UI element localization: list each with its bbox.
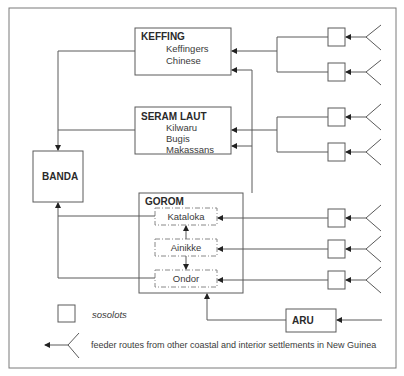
keffing-box: KEFFING Keffingers Chinese xyxy=(135,28,231,75)
feeder-legend-icon xyxy=(68,333,79,358)
keffing-item-1: Keffingers xyxy=(166,43,209,54)
seram-laut-item-3: Makassans xyxy=(166,144,214,155)
seram-laut-item-1: Kilwaru xyxy=(166,122,197,133)
legend-sosolots: sosolots xyxy=(92,309,127,320)
feeder-route-icon xyxy=(366,104,381,130)
ainikke-label: Ainikke xyxy=(171,242,202,253)
keffing-title: KEFFING xyxy=(141,31,185,42)
gorom-title: GOROM xyxy=(145,196,184,207)
seram-feeders xyxy=(232,104,381,165)
gorom-feeders xyxy=(218,205,381,293)
ondor-label: Ondor xyxy=(173,273,199,284)
banda-box: BANDA xyxy=(33,151,83,202)
keffing-item-2: Chinese xyxy=(166,55,201,66)
sosolot-box xyxy=(328,240,345,258)
sosolot-box xyxy=(328,28,345,46)
feeder-route-icon xyxy=(366,267,381,293)
sosolot-legend-icon xyxy=(58,305,75,322)
feeder-route-icon xyxy=(366,60,381,85)
trade-network-diagram: KEFFING Keffingers Chinese SERAM LAUT Ki… xyxy=(0,0,404,376)
seram-laut-item-2: Bugis xyxy=(166,133,190,144)
sosolot-box xyxy=(328,209,345,227)
kataloka-label: Kataloka xyxy=(168,211,206,222)
banda-title: BANDA xyxy=(42,171,78,182)
seram-laut-title: SERAM LAUT xyxy=(141,111,207,122)
legend-feeder: feeder routes from other coastal and int… xyxy=(91,340,376,350)
sosolot-box xyxy=(328,108,345,126)
feeder-route-icon xyxy=(366,139,381,165)
sosolot-box xyxy=(328,271,345,289)
seram-laut-box: SERAM LAUT Kilwaru Bugis Makassans xyxy=(135,107,231,155)
gorom-to-keffing xyxy=(232,70,252,193)
sosolot-box xyxy=(328,63,345,81)
aru-box: ARU xyxy=(286,309,336,332)
feeder-route-icon xyxy=(366,25,381,50)
feeder-route-icon xyxy=(366,205,381,231)
aru-title: ARU xyxy=(292,315,314,326)
keffing-feeders xyxy=(232,25,381,85)
feeder-route-icon xyxy=(366,236,381,262)
sosolot-box xyxy=(328,143,345,161)
